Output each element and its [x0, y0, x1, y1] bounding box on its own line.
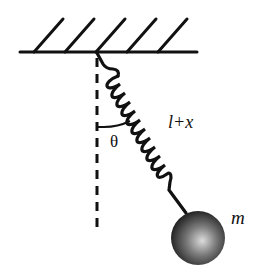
- spring-pendulum-diagram: [0, 0, 257, 279]
- spring-length-label: l+x: [168, 112, 193, 133]
- ceiling-support: [20, 19, 197, 52]
- angle-arc: [97, 121, 130, 127]
- mass-bob: [171, 211, 225, 265]
- angle-label: θ: [110, 132, 118, 152]
- mass-label: m: [231, 207, 245, 229]
